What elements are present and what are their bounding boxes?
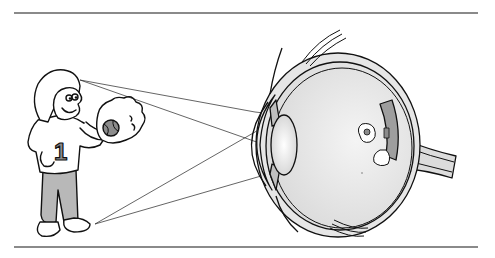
baseball — [103, 120, 119, 136]
baseball-glove — [97, 97, 145, 143]
face — [54, 88, 82, 120]
eye-cross-section — [251, 30, 456, 237]
lens — [271, 115, 297, 175]
eye-diagram: 1 — [0, 0, 495, 258]
shoe-left — [37, 222, 60, 236]
child-figure: 1 — [28, 70, 145, 237]
shoe-right — [64, 218, 90, 232]
pants — [41, 170, 78, 224]
shirt-number: 1 — [54, 138, 67, 165]
